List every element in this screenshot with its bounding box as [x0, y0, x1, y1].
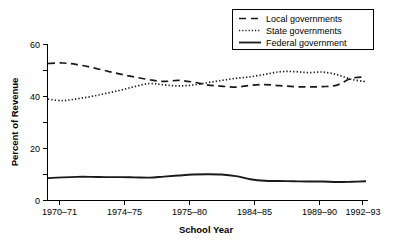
x-tick-label-5: 1989–90 — [302, 207, 337, 217]
legend-label-federal-government: Federal government — [266, 38, 347, 48]
revenue-by-source-line-chart: 0 20 40 60 1970–71 1974–75 1975–80 1984–… — [0, 0, 396, 247]
x-tick-label-2: 1974–75 — [107, 207, 142, 217]
x-tick-label-6: 1992–93 — [345, 207, 380, 217]
data-series-group — [48, 63, 366, 182]
x-tick-label-3: 1975–80 — [172, 207, 207, 217]
series-federal-government — [48, 174, 366, 182]
legend-label-local-governments: Local governments — [266, 14, 343, 24]
y-tick-label-0: 0 — [35, 196, 40, 206]
y-tick-marks — [43, 45, 48, 201]
y-tick-label-20: 20 — [30, 144, 40, 154]
series-state-governments — [48, 71, 366, 100]
chart-canvas: 0 20 40 60 1970–71 1974–75 1975–80 1984–… — [0, 0, 396, 247]
y-tick-label-40: 40 — [30, 92, 40, 102]
y-axis-title: Percent of Revenue — [9, 78, 20, 167]
legend-label-state-governments: State governments — [266, 26, 342, 36]
x-tick-marks — [60, 201, 363, 206]
x-tick-label-1: 1970–71 — [42, 207, 77, 217]
x-tick-labels: 1970–71 1974–75 1975–80 1984–85 1989–90 … — [42, 207, 381, 217]
x-axis-title: School Year — [179, 224, 234, 235]
y-tick-labels: 0 20 40 60 — [30, 40, 40, 206]
x-tick-label-4: 1984–85 — [237, 207, 272, 217]
y-tick-label-60: 60 — [30, 40, 40, 50]
chart-legend: Local governments State governments Fede… — [233, 10, 374, 50]
